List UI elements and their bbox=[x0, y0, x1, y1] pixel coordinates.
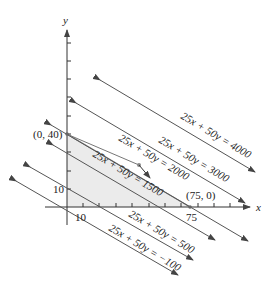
point-label-0-40: (0, 40) bbox=[33, 128, 63, 141]
x-tick-label-10: 10 bbox=[75, 211, 87, 223]
level-label-neg100: 25x + 50y = −100 bbox=[107, 221, 184, 273]
y-tick-label-10: 10 bbox=[53, 183, 65, 195]
level-curves-diagram: y x 10 75 10 (0, 40) (75, 0) 25x + 50y =… bbox=[0, 0, 275, 285]
y-axis-label: y bbox=[62, 14, 68, 26]
point-label-75-0: (75, 0) bbox=[186, 189, 216, 202]
x-axis-label: x bbox=[255, 201, 261, 213]
vertex-point bbox=[188, 205, 192, 209]
vertex-point bbox=[65, 132, 69, 136]
x-tick-label-75: 75 bbox=[186, 211, 198, 223]
